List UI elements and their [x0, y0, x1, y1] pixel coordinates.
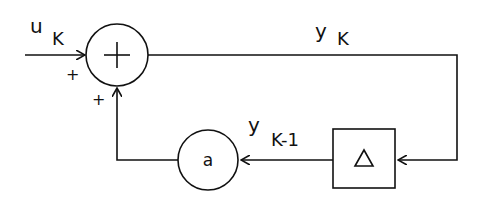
input-sub: K	[52, 28, 65, 49]
gain-symbol: a	[203, 150, 213, 170]
summing-junction	[86, 24, 148, 86]
sign-plus-2: +	[92, 90, 105, 109]
delay-block	[333, 129, 395, 188]
input-label: u	[30, 14, 43, 38]
block-diagram: u K + + y K y K-1 a	[0, 0, 483, 197]
delayed-sub: K-1	[271, 129, 299, 150]
delayed-label: y	[248, 113, 260, 137]
output-sub: K	[337, 28, 350, 49]
output-line	[148, 55, 457, 160]
output-label: y	[315, 19, 327, 43]
sign-plus-1: +	[66, 65, 79, 84]
feedback-line	[117, 88, 178, 160]
